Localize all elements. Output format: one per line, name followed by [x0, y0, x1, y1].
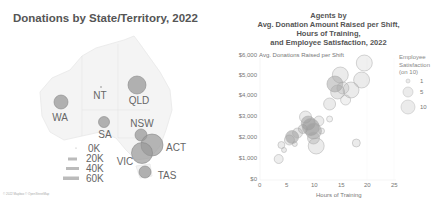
scatter-plot-area [220, 0, 437, 206]
bubble-qld[interactable] [128, 76, 146, 94]
legend-title-line-1: Employee [399, 54, 430, 62]
legend-label-60k: 60K [86, 173, 104, 184]
scatter-point[interactable] [308, 138, 324, 154]
label-qld: QLD [129, 95, 150, 106]
label-vic: VIC [117, 156, 134, 167]
bubble-sa[interactable] [99, 117, 110, 128]
australia-map [0, 0, 220, 206]
legend-size-5: 5 [420, 89, 423, 95]
legend-title-line-2: Satisfaction [399, 62, 430, 70]
x-tick-15: 15 [338, 182, 345, 188]
label-nsw: NSW [130, 118, 153, 129]
bubble-nt[interactable] [100, 86, 102, 88]
legend-swatch-40k [66, 167, 79, 170]
label-wa: WA [52, 112, 68, 123]
legend-bubble-1 [406, 79, 410, 83]
label-tas: TAS [158, 170, 177, 181]
legend-title-line-3: (on 10) [399, 69, 430, 77]
map-attribution: © 2022 Mapbox © OpenStreetMap [3, 192, 49, 196]
bubble-wa[interactable] [54, 95, 68, 109]
satisfaction-legend-bubbles [401, 79, 415, 114]
scatter-point[interactable] [314, 116, 324, 126]
scatter-point[interactable] [292, 142, 297, 147]
scatter-point[interactable] [352, 139, 360, 147]
scatter-point[interactable] [332, 67, 348, 83]
x-tick-20: 20 [364, 182, 371, 188]
legend-swatch-0k [75, 147, 76, 148]
scatter-bubbles [274, 55, 372, 164]
satisfaction-legend-title: Employee Satisfaction (on 10) [399, 54, 430, 77]
size-legend-swatches [63, 147, 79, 180]
label-act: ACT [166, 142, 186, 153]
legend-swatch-20k [68, 158, 77, 161]
scatter-point[interactable] [356, 55, 372, 71]
legend-size-10: 10 [420, 104, 427, 110]
scatter-point[interactable] [324, 98, 336, 110]
scatter-point[interactable] [274, 155, 283, 164]
x-tick-10: 10 [311, 182, 318, 188]
legend-swatch-60k [63, 177, 79, 181]
agents-scatter-panel: Agents by Avg. Donation Amount Raised pe… [220, 0, 437, 206]
bubble-tas[interactable] [139, 166, 151, 178]
x-tick-5: 5 [285, 182, 288, 188]
bubble-vic[interactable] [132, 143, 153, 164]
x-tick-25: 25 [391, 182, 398, 188]
label-nt: NT [93, 90, 106, 101]
scatter-point[interactable] [354, 72, 370, 88]
legend-size-1: 1 [420, 78, 423, 84]
x-tick-0: 0 [258, 182, 261, 188]
scatter-point[interactable] [327, 116, 333, 122]
donations-map-panel: Donations by State/Territory, 2022 [0, 0, 220, 206]
legend-bubble-10 [401, 100, 415, 114]
label-sa: SA [98, 129, 111, 140]
x-axis-title: Hours of Training [316, 192, 362, 198]
scatter-point[interactable] [319, 128, 325, 134]
legend-bubble-5 [403, 87, 413, 97]
scatter-point[interactable] [282, 148, 287, 153]
